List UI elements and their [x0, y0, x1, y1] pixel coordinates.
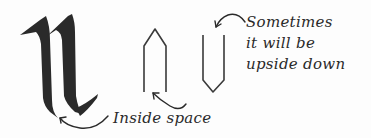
diagram-canvas: Inside space Sometimes it will be upside…: [0, 0, 371, 138]
pointed-arch-upside-down: [203, 35, 224, 92]
arrow-inside-space-n: [60, 116, 108, 128]
upside-down-note-line-2: it will be: [246, 33, 345, 54]
arrow-inside-space-arch: [153, 93, 186, 109]
upside-down-note: Sometimes it will be upside down: [246, 12, 345, 75]
upside-down-note-line-3: upside down: [246, 54, 345, 75]
inside-space-label: Inside space: [113, 108, 211, 129]
upside-down-note-line-1: Sometimes: [246, 12, 345, 33]
pointed-arch-upright: [144, 29, 166, 92]
blackletter-n-glyph: [20, 14, 98, 118]
arrow-sometimes: [215, 14, 245, 27]
